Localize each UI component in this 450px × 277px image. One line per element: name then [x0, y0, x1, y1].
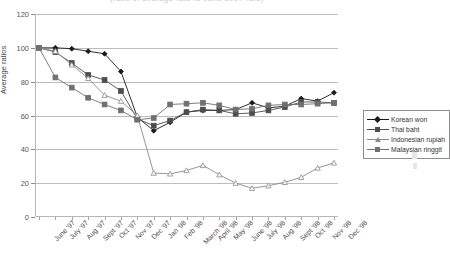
data-point-diamond	[69, 46, 74, 51]
y-tick-label: 40	[3, 145, 29, 154]
data-point-square	[217, 103, 222, 108]
data-point-triangle	[200, 163, 205, 168]
y-tick-label: 60	[3, 112, 29, 121]
data-point-triangle	[299, 175, 304, 180]
legend-label: Thai baht	[389, 126, 419, 133]
chart-legend: Korean wonThai bahtIndonesian rupiahMala…	[363, 110, 450, 159]
data-point-square	[233, 107, 238, 112]
data-point-square	[266, 103, 271, 108]
series-thai-baht	[37, 45, 337, 128]
data-point-square	[168, 118, 173, 123]
data-point-triangle	[331, 160, 336, 165]
data-point-square	[135, 117, 140, 122]
data-point-triangle	[217, 172, 222, 177]
data-point-square	[332, 100, 337, 105]
decor-speck	[413, 163, 417, 169]
legend-square-icon	[367, 125, 389, 134]
series-layer	[35, 14, 338, 217]
data-point-square	[184, 101, 189, 106]
series-korean-won	[37, 45, 337, 133]
data-point-square	[200, 107, 205, 112]
y-tick-label: 20	[3, 179, 29, 188]
y-tick	[31, 217, 35, 218]
data-point-square	[53, 75, 58, 80]
data-point-square	[69, 85, 74, 90]
data-point-square	[102, 102, 107, 107]
x-tick-labels: June '97July '97Aug '97Sept '97Oct '97No…	[35, 219, 345, 277]
data-point-square	[200, 100, 205, 105]
legend-label: Indonesian rupiah	[389, 136, 445, 143]
y-tick-label: 100	[3, 44, 29, 53]
chart-title-cropped: (ratio of average rate to June 1997 rate…	[0, 0, 443, 9]
data-point-square	[86, 95, 91, 100]
y-axis-title: Average ratios	[0, 46, 8, 94]
y-tick-label: 120	[3, 10, 29, 19]
data-point-square	[119, 108, 124, 113]
legend-triangle-icon	[367, 135, 389, 144]
data-point-diamond	[332, 90, 337, 95]
chart-title-text: (ratio of average rate to June 1997 rate…	[110, 0, 264, 3]
y-tick-label: 80	[3, 78, 29, 87]
decor-speck	[412, 152, 417, 159]
data-point-square	[151, 116, 156, 121]
data-point-square	[119, 89, 124, 94]
data-point-square	[299, 102, 304, 107]
data-point-square	[250, 106, 255, 111]
legend-item[interactable]: Malaysian ringgit	[367, 145, 445, 154]
y-tick-label: 0	[3, 213, 29, 222]
data-point-square	[315, 101, 320, 106]
data-point-triangle	[233, 181, 238, 186]
data-point-square	[168, 102, 173, 107]
legend-item[interactable]: Thai baht	[367, 125, 445, 134]
legend-item[interactable]: Korean won	[367, 115, 445, 124]
series-indonesian-rupiah	[36, 45, 336, 190]
series-line	[39, 48, 334, 120]
legend-square-icon	[367, 145, 389, 154]
data-point-square	[282, 102, 287, 107]
data-point-square	[102, 78, 107, 83]
legend-label: Korean won	[389, 116, 427, 123]
data-point-square	[184, 110, 189, 115]
data-point-diamond	[250, 100, 255, 105]
data-point-square	[37, 45, 42, 50]
data-point-square	[266, 108, 271, 113]
legend-diamond-icon	[367, 115, 389, 124]
data-point-diamond	[86, 49, 91, 54]
legend-item[interactable]: Indonesian rupiah	[367, 135, 445, 144]
series-line	[39, 48, 334, 131]
data-point-square	[217, 108, 222, 113]
data-point-square	[151, 123, 156, 128]
